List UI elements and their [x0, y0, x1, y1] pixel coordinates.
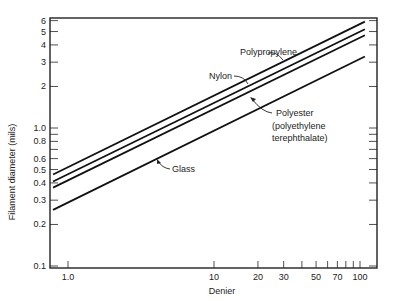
y-tick-label: 0.2: [33, 219, 46, 229]
y-tick-label: 2: [41, 81, 46, 91]
series-line-nylon: [53, 29, 365, 181]
y-tick-label: 6: [41, 16, 46, 26]
x-tick-label: 70: [332, 272, 342, 282]
y-tick-label: 3: [41, 57, 46, 67]
label-glass: Glass: [172, 164, 196, 174]
y-tick-label: 0.3: [33, 195, 46, 205]
y-tick-label: 1.0: [33, 123, 46, 133]
series-lines: [53, 22, 365, 210]
y-tick-label: 4: [41, 40, 46, 50]
x-axis-label: Denier: [209, 286, 236, 296]
arrow-polyester: [250, 97, 256, 102]
label-nylon: Nylon: [209, 71, 232, 81]
y-tick-label: 0.6: [33, 154, 46, 164]
x-tick-label: 100: [352, 272, 367, 282]
x-tick-label: 30: [279, 272, 289, 282]
y-axis-label: Filament diameter (mils): [7, 124, 17, 221]
series-line-polyester: [53, 35, 365, 187]
x-tick-label: 10: [209, 272, 219, 282]
label-polyester-2: (polyethylene: [272, 121, 326, 131]
x-tick-label: 50: [311, 272, 321, 282]
y-tick-label: 0.5: [33, 165, 46, 175]
label-polypropylene: Polypropylene: [240, 47, 297, 57]
arrow-glass: [157, 159, 161, 164]
x-tick-label: 1.0: [62, 272, 75, 282]
y-tick-label: 0.4: [33, 178, 46, 188]
log-log-chart: 654321.00.80.60.50.40.30.20.1 1.01020305…: [0, 0, 394, 301]
x-tick-label: 20: [253, 272, 263, 282]
y-tick-label: 0.1: [33, 261, 46, 271]
series-line-polypropylene: [53, 22, 365, 175]
label-polyester-3: terephthalate): [272, 133, 328, 143]
y-tick-label: 5: [41, 27, 46, 37]
y-tick-label: 0.8: [33, 136, 46, 146]
x-axis-ticks: 1.01020305070100: [62, 261, 368, 282]
plot-frame: [50, 18, 377, 268]
label-polyester-1: Polyester: [276, 108, 314, 118]
